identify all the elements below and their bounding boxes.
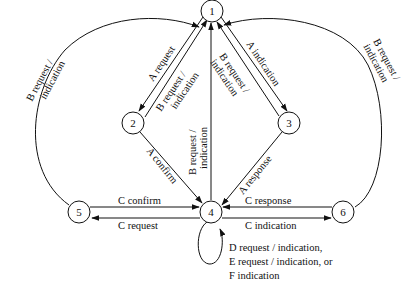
node-1: 1 (201, 0, 223, 22)
node-4: 4 (200, 201, 222, 223)
svg-text:2: 2 (130, 117, 136, 129)
label-5-to-1: B request / indication (24, 53, 67, 108)
svg-text:D request / indication,: D request / indication, (229, 242, 322, 253)
label-3-to-4: A response (236, 153, 274, 196)
label-4-self-loop: D request / indication, E request / indi… (229, 242, 333, 281)
svg-text:B request /: B request / (187, 129, 198, 175)
svg-text:E request / indication, or: E request / indication, or (229, 256, 333, 267)
label-4-to-1: B request / indication (187, 126, 209, 175)
node-2: 2 (122, 112, 144, 134)
node-6: 6 (332, 201, 354, 223)
node-5: 5 (68, 201, 90, 223)
svg-text:4: 4 (208, 206, 214, 218)
svg-text:1: 1 (209, 5, 215, 17)
node-3: 3 (278, 112, 300, 134)
label-1-to-3: A indication (244, 39, 282, 89)
svg-text:6: 6 (340, 206, 346, 218)
label-4-to-5: C request (118, 220, 158, 231)
svg-text:5: 5 (76, 206, 82, 218)
label-1-to-2: A request (146, 44, 178, 83)
svg-text:indication: indication (198, 126, 209, 169)
label-6-to-4: C response (245, 195, 292, 206)
svg-text:F indication: F indication (229, 270, 280, 281)
label-5-to-4: C confirm (118, 195, 161, 206)
svg-text:3: 3 (286, 117, 292, 129)
edge-4-self-loop (198, 222, 222, 264)
label-2-to-4: A confirm (144, 145, 180, 185)
label-6-to-1: B request / indication (362, 37, 403, 88)
label-4-to-6: C indication (245, 220, 297, 231)
state-diagram: A request B request / indication A indic… (0, 0, 418, 295)
label-3-to-1: B request / indication (208, 51, 252, 101)
